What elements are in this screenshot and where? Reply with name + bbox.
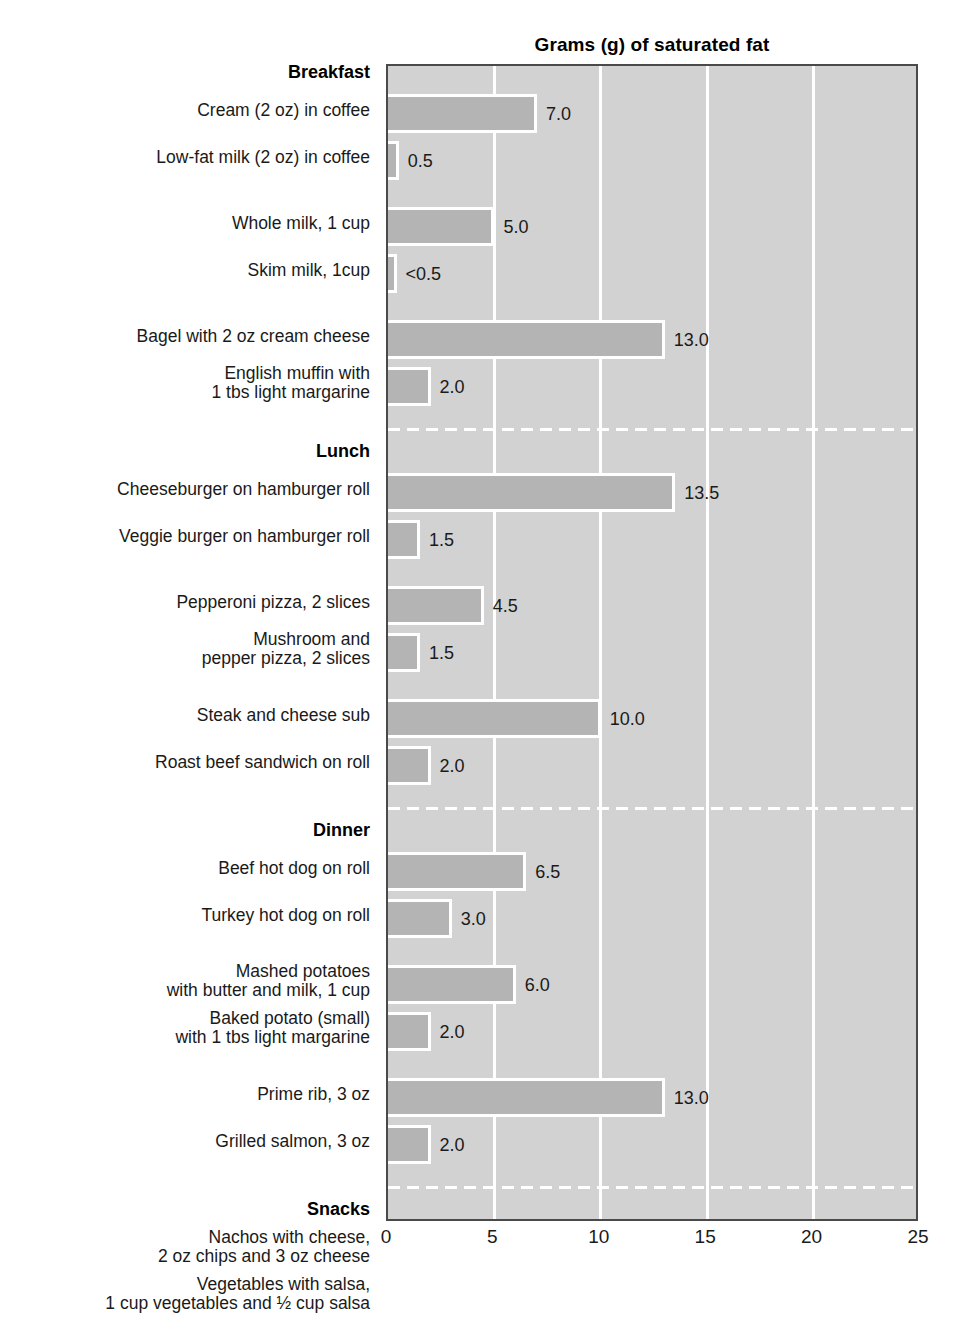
bar-value-label: 4.5 — [493, 597, 518, 615]
category-label: Bagel with 2 oz cream cheese — [0, 327, 378, 347]
bar — [388, 520, 420, 559]
bar-value-label: 0.5 — [408, 152, 433, 170]
x-tick-label-20: 20 — [801, 1226, 822, 1248]
x-tick-label-15: 15 — [695, 1226, 716, 1248]
x-tick-label-25: 25 — [907, 1226, 928, 1248]
bar-value-label: <0.5 — [406, 265, 442, 283]
category-label: Cheeseburger on hamburger roll — [0, 480, 378, 500]
category-label-column: BreakfastCream (2 oz) in coffeeLow-fat m… — [0, 64, 378, 1221]
bar-value-label: 3.0 — [461, 910, 486, 928]
category-label: Vegetables with salsa, 1 cup vegetables … — [0, 1275, 378, 1315]
section-separator-lunch — [388, 428, 916, 431]
category-label: Prime rib, 3 oz — [0, 1085, 378, 1105]
bar — [388, 699, 601, 738]
category-label: Mashed potatoes with butter and milk, 1 … — [0, 962, 378, 1002]
bar — [388, 1125, 431, 1164]
bar — [388, 94, 537, 133]
bar-value-label: 7.0 — [546, 105, 571, 123]
category-label: Mushroom and pepper pizza, 2 slices — [0, 630, 378, 670]
bar-value-label: 2.0 — [440, 378, 465, 396]
gridline-15 — [706, 66, 709, 1219]
bar — [388, 852, 526, 891]
group-heading-snacks: Snacks — [0, 1199, 378, 1219]
x-axis: 0510152025 — [386, 1226, 918, 1260]
bar — [388, 965, 516, 1004]
category-label: Nachos with cheese, 2 oz chips and 3 oz … — [0, 1228, 378, 1268]
plot-area: 7.00.55.0<0.513.02.013.51.54.51.510.02.0… — [386, 64, 918, 1221]
bar-value-label: 1.5 — [429, 531, 454, 549]
category-label: Beef hot dog on roll — [0, 859, 378, 879]
category-label: Whole milk, 1 cup — [0, 214, 378, 234]
bar — [388, 320, 665, 359]
bar-value-label: 13.0 — [674, 1089, 709, 1107]
x-tick-label-5: 5 — [487, 1226, 498, 1248]
bar — [388, 473, 675, 512]
bar — [388, 1012, 431, 1051]
bar — [388, 1078, 665, 1117]
group-heading-dinner: Dinner — [0, 820, 378, 840]
bar-value-label: 10.0 — [610, 710, 645, 728]
bar — [388, 367, 431, 406]
category-label: Steak and cheese sub — [0, 706, 378, 726]
bar — [388, 746, 431, 785]
bar-value-label: 13.0 — [674, 331, 709, 349]
category-label: Turkey hot dog on roll — [0, 906, 378, 926]
gridline-10 — [599, 66, 602, 1219]
bar — [388, 254, 397, 293]
category-label: Cream (2 oz) in coffee — [0, 101, 378, 121]
bar — [388, 633, 420, 672]
bar-value-label: 5.0 — [503, 218, 528, 236]
chart-page: Grams (g) of saturated fat BreakfastCrea… — [0, 0, 967, 1338]
category-label: Veggie burger on hamburger roll — [0, 527, 378, 547]
category-label: Pepperoni pizza, 2 slices — [0, 593, 378, 613]
category-label: Baked potato (small) with 1 tbs light ma… — [0, 1009, 378, 1049]
category-label: Low-fat milk (2 oz) in coffee — [0, 148, 378, 168]
category-label: English muffin with 1 tbs light margarin… — [0, 364, 378, 404]
group-heading-breakfast: Breakfast — [0, 62, 378, 82]
x-tick-label-10: 10 — [588, 1226, 609, 1248]
bar-value-label: 6.0 — [525, 976, 550, 994]
bar-value-label: 13.5 — [684, 484, 719, 502]
bar-value-label: 2.0 — [440, 1023, 465, 1041]
x-tick-label-0: 0 — [381, 1226, 392, 1248]
bar — [388, 141, 399, 180]
bar — [388, 899, 452, 938]
category-label: Grilled salmon, 3 oz — [0, 1132, 378, 1152]
category-label: Skim milk, 1cup — [0, 261, 378, 281]
bar-value-label: 2.0 — [440, 1136, 465, 1154]
bar-value-label: 2.0 — [440, 757, 465, 775]
group-heading-lunch: Lunch — [0, 441, 378, 461]
gridline-20 — [812, 66, 815, 1219]
plot-inner: 7.00.55.0<0.513.02.013.51.54.51.510.02.0… — [388, 66, 916, 1219]
bar-value-label: 6.5 — [535, 863, 560, 881]
section-separator-dinner — [388, 807, 916, 810]
bar — [388, 207, 494, 246]
page-title: Grams (g) of saturated fat — [386, 34, 918, 56]
bar-value-label: 1.5 — [429, 644, 454, 662]
section-separator-snacks — [388, 1186, 916, 1189]
category-label: Roast beef sandwich on roll — [0, 753, 378, 773]
bar — [388, 586, 484, 625]
